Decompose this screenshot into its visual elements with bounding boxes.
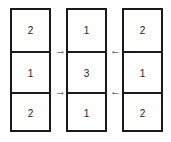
cell: 1 — [124, 51, 161, 94]
cell: 2 — [124, 92, 161, 132]
left-arrow-icon: ← — [110, 45, 121, 55]
left-column: 2 1 2 — [10, 8, 51, 132]
cell: 2 — [124, 10, 161, 51]
cell: 1 — [68, 10, 105, 51]
cell: 2 — [12, 92, 49, 132]
right-arrow-icon: → — [55, 45, 66, 55]
cell: 1 — [68, 92, 105, 132]
right-arrow-icon: → — [55, 86, 66, 96]
cell: 3 — [68, 51, 105, 94]
right-column: 2 1 2 — [122, 8, 163, 132]
middle-column: 1 3 1 — [66, 8, 107, 132]
left-arrow-icon: ← — [110, 86, 121, 96]
cell: 1 — [12, 51, 49, 94]
cell: 2 — [12, 10, 49, 51]
